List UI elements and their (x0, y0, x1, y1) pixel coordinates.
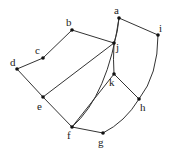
edge-c-d (17, 58, 43, 69)
edge-b-j (72, 30, 114, 43)
node-label-c: c (35, 44, 40, 56)
graph-diagram: abcdefghijk (0, 0, 172, 154)
edge-b-c (43, 30, 72, 58)
node-label-g: g (98, 136, 104, 148)
node-g (101, 131, 105, 135)
node-label-h: h (140, 101, 146, 113)
edge-i-h (139, 35, 158, 99)
node-label-b: b (66, 16, 72, 28)
edge-k-h (114, 74, 139, 99)
edge-g-h (103, 99, 139, 133)
node-label-f: f (67, 129, 71, 141)
node-e (41, 95, 45, 99)
node-label-d: d (10, 56, 16, 68)
node-d (15, 67, 19, 71)
edge-a-f (72, 18, 119, 127)
node-f (70, 125, 74, 129)
edge-a-i (119, 18, 158, 35)
node-a (117, 16, 121, 20)
labels: abcdefghijk (10, 4, 162, 148)
node-label-a: a (114, 4, 119, 16)
node-c (41, 56, 45, 60)
node-label-j: j (115, 41, 119, 53)
edge-e-j (43, 43, 114, 97)
node-label-i: i (159, 22, 162, 34)
edge-d-e (17, 69, 43, 97)
edge-f-g (72, 127, 103, 133)
node-b (70, 28, 74, 32)
nodes (15, 16, 160, 135)
node-label-e: e (37, 100, 42, 112)
edges (17, 18, 158, 133)
edge-e-f (43, 97, 72, 127)
node-label-k: k (109, 76, 115, 88)
